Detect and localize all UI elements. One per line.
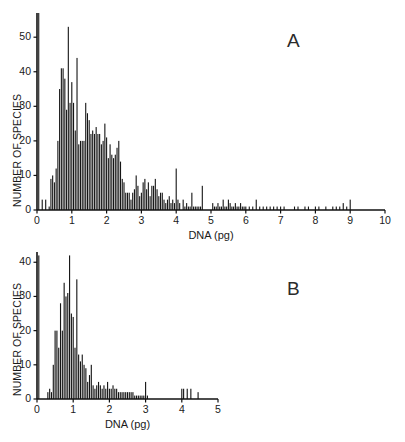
- panel-a-x-tick-label: 7: [267, 214, 295, 226]
- panel-b-x-tick-label: 5: [204, 403, 232, 415]
- panel-a-x-tick-label: 1: [58, 214, 86, 226]
- panel-b-x-tick-label: 2: [95, 403, 123, 415]
- panel-a-x-tick-label: 5: [197, 214, 225, 226]
- panel-a-y-tick-label: 10: [1, 168, 31, 180]
- panel-a-x-tick-label: 0: [23, 214, 51, 226]
- panel-a-x-tick-label: 6: [232, 214, 260, 226]
- panel-b-y-tick-label: 0: [1, 392, 31, 404]
- panel-b-y-tick-label: 10: [1, 358, 31, 370]
- panel-b-y-tick-label: 40: [1, 255, 31, 267]
- figure-genome-size-histograms: A DNA (pg) NUMBER OF SPECIES 01234567891…: [0, 0, 405, 442]
- panel-b-x-tick-label: 3: [132, 403, 160, 415]
- panel-b-x-tick-label: 1: [59, 403, 87, 415]
- panel-a: A DNA (pg) NUMBER OF SPECIES 01234567891…: [0, 0, 405, 240]
- panel-b-x-tick-label: 0: [23, 403, 51, 415]
- panel-b-x-tick-label: 4: [168, 403, 196, 415]
- panel-a-x-tick-label: 8: [301, 214, 329, 226]
- panel-b-x-axis-title: DNA (pg): [68, 418, 188, 430]
- panel-a-y-tick-label: 30: [1, 99, 31, 111]
- panel-b: B DNA (pg) NUMBER OF SPECIES 01234501020…: [0, 240, 405, 442]
- panel-b-y-tick-label: 30: [1, 289, 31, 301]
- panel-a-plot: [0, 0, 405, 240]
- panel-a-x-tick-label: 3: [127, 214, 155, 226]
- panel-a-x-tick-label: 10: [371, 214, 399, 226]
- panel-a-x-tick-label: 9: [336, 214, 364, 226]
- panel-a-y-tick-label: 0: [1, 203, 31, 215]
- panel-a-y-tick-label: 40: [1, 65, 31, 77]
- panel-a-x-tick-label: 2: [93, 214, 121, 226]
- panel-a-y-tick-label: 20: [1, 134, 31, 146]
- panel-b-y-tick-label: 20: [1, 324, 31, 336]
- panel-a-x-tick-label: 4: [162, 214, 190, 226]
- panel-a-y-tick-label: 50: [1, 30, 31, 42]
